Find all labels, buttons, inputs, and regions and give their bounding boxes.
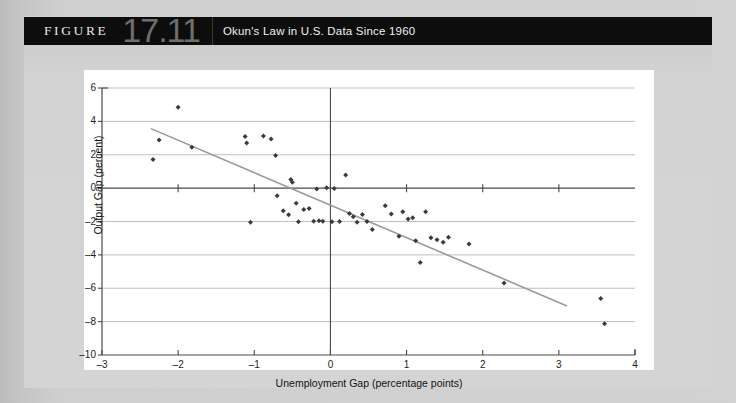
data-point xyxy=(176,105,181,110)
data-point xyxy=(151,157,156,162)
data-point xyxy=(296,219,301,224)
y-tick-label: 2 xyxy=(72,149,96,160)
data-point xyxy=(467,242,472,247)
chart-panel xyxy=(84,70,654,370)
data-point xyxy=(389,211,394,216)
data-point xyxy=(301,207,306,212)
figure-caption: Okun's Law in U.S. Data Since 1960 xyxy=(223,25,415,37)
data-point xyxy=(281,208,286,213)
y-tick-label: –4 xyxy=(72,249,96,260)
data-point xyxy=(446,235,451,240)
x-tick-label: 0 xyxy=(315,359,345,370)
data-point xyxy=(423,209,428,214)
figure-header-bar: FIGURE 17.11 Okun's Law in U.S. Data Sin… xyxy=(24,17,712,45)
y-tick-label: –2 xyxy=(72,216,96,227)
y-tick-label: –8 xyxy=(72,316,96,327)
data-point xyxy=(428,235,433,240)
x-tick-label: 3 xyxy=(544,359,574,370)
data-point xyxy=(332,186,337,191)
data-point xyxy=(337,219,342,224)
figure-plate: FIGURE 17.11 Okun's Law in U.S. Data Sin… xyxy=(0,0,736,403)
data-point xyxy=(243,134,248,139)
data-point xyxy=(269,136,274,141)
data-point xyxy=(435,237,440,242)
scatter-plot xyxy=(84,70,654,370)
data-point xyxy=(383,203,388,208)
x-axis-title: Unemployment Gap (percentage points) xyxy=(276,377,463,389)
figure-label: FIGURE xyxy=(44,23,108,39)
data-point xyxy=(406,216,411,221)
data-point xyxy=(343,173,348,178)
y-tick-label: 6 xyxy=(72,82,96,93)
data-point xyxy=(244,141,249,146)
data-point xyxy=(157,138,162,143)
data-point xyxy=(314,186,319,191)
x-tick-label: 4 xyxy=(620,359,650,370)
data-point xyxy=(400,209,405,214)
y-tick-label: 0 xyxy=(72,182,96,193)
x-tick-label: –3 xyxy=(87,359,117,370)
trendline xyxy=(151,129,566,306)
data-point xyxy=(418,260,423,265)
data-point xyxy=(598,296,603,301)
data-point xyxy=(355,220,360,225)
x-tick-label: –1 xyxy=(239,359,269,370)
x-tick-label: 1 xyxy=(392,359,422,370)
data-point xyxy=(286,212,291,217)
data-point xyxy=(261,134,266,139)
data-point xyxy=(410,215,415,220)
data-point xyxy=(360,212,365,217)
data-point xyxy=(502,280,507,285)
figure-number: 17.11 xyxy=(122,17,200,44)
data-point xyxy=(324,185,329,190)
y-tick-label: 4 xyxy=(72,115,96,126)
header-divider xyxy=(212,17,213,45)
x-tick-label: –2 xyxy=(163,359,193,370)
data-point xyxy=(273,153,278,158)
data-point xyxy=(441,240,446,245)
data-point xyxy=(307,206,312,211)
scatter-points xyxy=(151,105,608,326)
x-tick-label: 2 xyxy=(468,359,498,370)
y-tick-label: –6 xyxy=(72,282,96,293)
data-point xyxy=(317,218,322,223)
data-point xyxy=(294,201,299,206)
data-point xyxy=(275,193,280,198)
data-point xyxy=(248,220,253,225)
data-point xyxy=(320,219,325,224)
data-point xyxy=(370,227,375,232)
data-point xyxy=(311,219,316,224)
